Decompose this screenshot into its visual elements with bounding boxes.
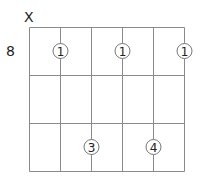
base-fret-label: 8 xyxy=(6,43,15,59)
chord-diagram: X 8 1 1 1 3 4 xyxy=(0,0,201,176)
svg-text:1: 1 xyxy=(119,45,127,59)
finger-dot: 4 xyxy=(146,140,161,155)
svg-text:1: 1 xyxy=(181,45,189,59)
finger-dot: 3 xyxy=(84,140,99,155)
muted-string-marker: X xyxy=(24,9,34,25)
finger-dot: 1 xyxy=(115,44,130,59)
svg-text:3: 3 xyxy=(88,141,96,155)
svg-text:1: 1 xyxy=(57,45,65,59)
finger-dot: 1 xyxy=(177,44,192,59)
svg-text:4: 4 xyxy=(150,141,158,155)
finger-dot: 1 xyxy=(53,44,68,59)
